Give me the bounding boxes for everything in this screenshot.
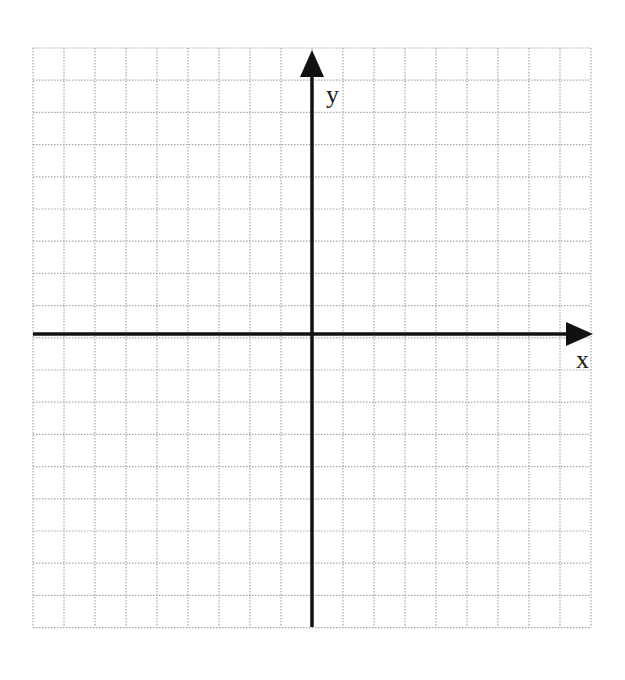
coordinate-plane: x y [0, 0, 625, 680]
y-axis: y [300, 50, 339, 627]
x-axis-arrow-icon [566, 322, 593, 346]
x-axis-label: x [576, 345, 589, 374]
y-axis-arrow-icon [300, 50, 324, 77]
y-axis-label: y [326, 80, 339, 109]
